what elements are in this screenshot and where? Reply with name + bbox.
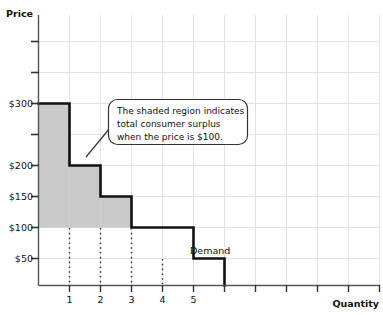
y-tick-label-200: $200	[9, 160, 33, 171]
quantity-axis-title: Quantity	[332, 298, 379, 309]
y-tick-label-300: $300	[9, 98, 33, 109]
x-tick-label-1: 1	[66, 294, 72, 305]
callout-line-1: The shaded region indicates	[116, 106, 245, 116]
x-tick-label-3: 3	[128, 294, 134, 305]
callout-pointer	[86, 128, 110, 157]
demand-curve-label: Demand	[190, 245, 230, 256]
chart-canvas: $300 $200 $150 $100 $50 1 2 3 4 5 Price …	[0, 0, 383, 315]
x-tick-label-4: 4	[159, 294, 165, 305]
x-tick-label-2: 2	[97, 294, 103, 305]
price-axis-title: Price	[6, 8, 33, 19]
y-tick-label-50: $50	[15, 253, 33, 264]
x-tick-label-5: 5	[190, 294, 196, 305]
y-tick-label-150: $150	[9, 191, 33, 202]
y-tick-label-100: $100	[9, 222, 33, 233]
consumer-surplus-chart: $300 $200 $150 $100 $50 1 2 3 4 5 Price …	[0, 0, 383, 315]
quantity-droplines	[70, 228, 163, 284]
callout-line-3: when the price is $100.	[117, 132, 223, 142]
callout-line-2: total consumer surplus	[117, 119, 221, 129]
consumer-surplus-callout: The shaded region indicates total consum…	[109, 100, 248, 145]
